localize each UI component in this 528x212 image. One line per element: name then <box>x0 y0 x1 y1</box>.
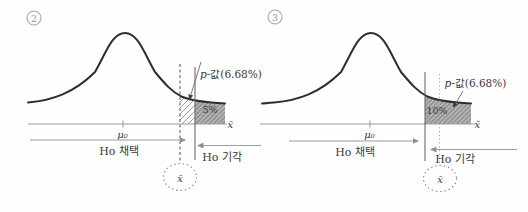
xbar-sample-label-3: x̄ <box>437 174 443 185</box>
accept-label-2: Ho 채택 <box>99 145 139 158</box>
region-percent-label-3: 10% <box>426 105 447 116</box>
panel-alpha-10pct: 3 p-값(6.68%) 10% x̄ μ₀ Ho 채택 Ho 기각 x̄ <box>260 10 517 192</box>
xbar-axis-label-2: x̄ <box>228 119 234 130</box>
normal-curve-3 <box>262 33 471 103</box>
panel-alpha-5pct: 2 p-값(6.68%) 5% x̄ μ₀ Ho 채택 Ho 기각 x̄ <box>27 11 262 191</box>
accept-label-3: Ho 채택 <box>335 146 375 159</box>
xbar-sample-label-2: x̄ <box>177 173 183 184</box>
p-value-label-2: p-값(6.68%) <box>200 68 262 80</box>
mu0-label-2: μ₀ <box>117 129 128 140</box>
badge-number-2: 2 <box>31 13 37 24</box>
mu0-label-3: μ₀ <box>364 129 375 140</box>
xbar-axis-label-3: x̄ <box>475 119 481 130</box>
hypothesis-test-figure: 2 p-값(6.68%) 5% x̄ μ₀ Ho 채택 Ho 기각 x̄ <box>0 0 528 212</box>
badge-number-3: 3 <box>272 12 278 23</box>
reject-label-2: Ho 기각 <box>202 151 242 164</box>
figure-canvas: 2 p-값(6.68%) 5% x̄ μ₀ Ho 채택 Ho 기각 x̄ <box>0 0 528 212</box>
reject-label-3: Ho 기각 <box>435 153 475 166</box>
p-value-label-3: p-값(6.68%) <box>445 77 507 89</box>
region-percent-label-2: 5% <box>202 104 217 115</box>
